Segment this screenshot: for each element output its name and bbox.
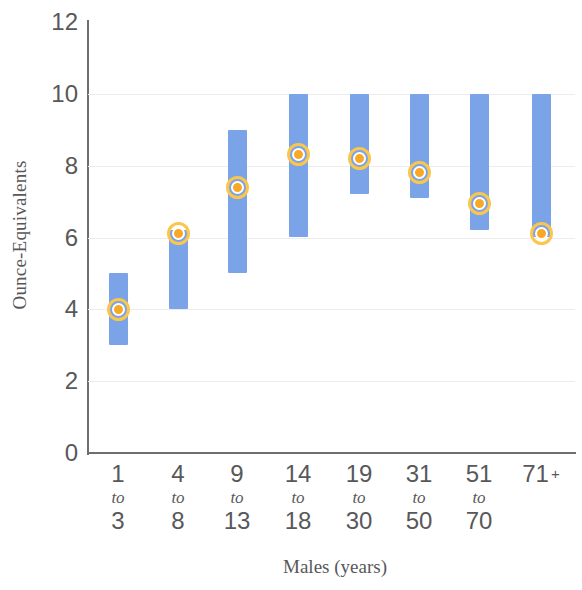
x-category-separator: to	[204, 489, 270, 506]
x-category-separator: to	[446, 489, 512, 506]
x-category-top: 71	[522, 462, 549, 486]
plot-area	[88, 22, 575, 453]
x-category-bottom: 3	[85, 509, 151, 533]
range-bar	[350, 94, 369, 195]
marker-core	[231, 181, 244, 194]
x-axis-title-text: Males (years)	[283, 556, 387, 577]
marker-core	[172, 227, 185, 240]
x-category-bottom: 70	[446, 509, 512, 533]
x-category-top: 51	[446, 462, 512, 486]
x-category-label: 9to13	[204, 462, 270, 536]
range-bar	[228, 130, 247, 274]
x-category-top: 9	[204, 462, 270, 486]
x-category-label: 71+	[508, 462, 574, 489]
x-category-top: 14	[265, 462, 331, 486]
marker-core	[535, 227, 548, 240]
average-marker	[348, 147, 371, 170]
y-tick-label: 8	[34, 154, 78, 178]
x-category-bottom: 13	[204, 509, 270, 533]
gridline-4	[88, 309, 575, 310]
y-tick-label: 10	[34, 82, 78, 106]
gridline-6	[88, 238, 575, 239]
gridline-8	[88, 166, 575, 167]
gridline-10	[88, 94, 575, 95]
average-marker	[468, 192, 491, 215]
x-category-separator: to	[386, 489, 452, 506]
average-marker	[287, 143, 310, 166]
y-tick-label: 0	[34, 441, 78, 465]
x-category-label: 14to18	[265, 462, 331, 536]
y-tick-label: 2	[34, 369, 78, 393]
x-category-top: 4	[145, 462, 211, 486]
gridline-2	[88, 381, 575, 382]
x-category-label: 1to3	[85, 462, 151, 536]
x-category-label: 19to30	[326, 462, 392, 536]
x-category-top: 1	[85, 462, 151, 486]
x-category-top: 31	[386, 462, 452, 486]
y-tick-label: 12	[34, 10, 78, 34]
average-marker	[226, 176, 249, 199]
x-category-bottom: 8	[145, 509, 211, 533]
x-category-top: 19	[326, 462, 392, 486]
y-tick-label: 4	[34, 297, 78, 321]
x-category-separator: to	[145, 489, 211, 506]
y-axis-title-text: Ounce-Equivalents	[9, 160, 31, 309]
x-category-bottom: 30	[326, 509, 392, 533]
marker-core	[413, 166, 426, 179]
x-category-label: 31to50	[386, 462, 452, 536]
x-category-separator: to	[326, 489, 392, 506]
marker-core	[292, 148, 305, 161]
chart-container: Ounce-Equivalents 121086420 1to34to89to1…	[0, 0, 582, 590]
average-marker	[408, 161, 431, 184]
marker-core	[112, 303, 125, 316]
y-tick-label: 6	[34, 226, 78, 250]
average-marker	[107, 298, 130, 321]
x-category-bottom: 50	[386, 509, 452, 533]
average-marker	[530, 222, 553, 245]
x-axis-title: Males (years)	[88, 556, 582, 578]
x-category-bottom: 18	[265, 509, 331, 533]
x-category-separator: to	[265, 489, 331, 506]
average-marker	[167, 222, 190, 245]
range-bar	[532, 94, 551, 238]
x-category-label: 51to70	[446, 462, 512, 536]
marker-core	[353, 152, 366, 165]
x-category-plus-sign: +	[551, 465, 560, 482]
marker-core	[473, 197, 486, 210]
x-category-label: 4to8	[145, 462, 211, 536]
x-category-separator: to	[85, 489, 151, 506]
